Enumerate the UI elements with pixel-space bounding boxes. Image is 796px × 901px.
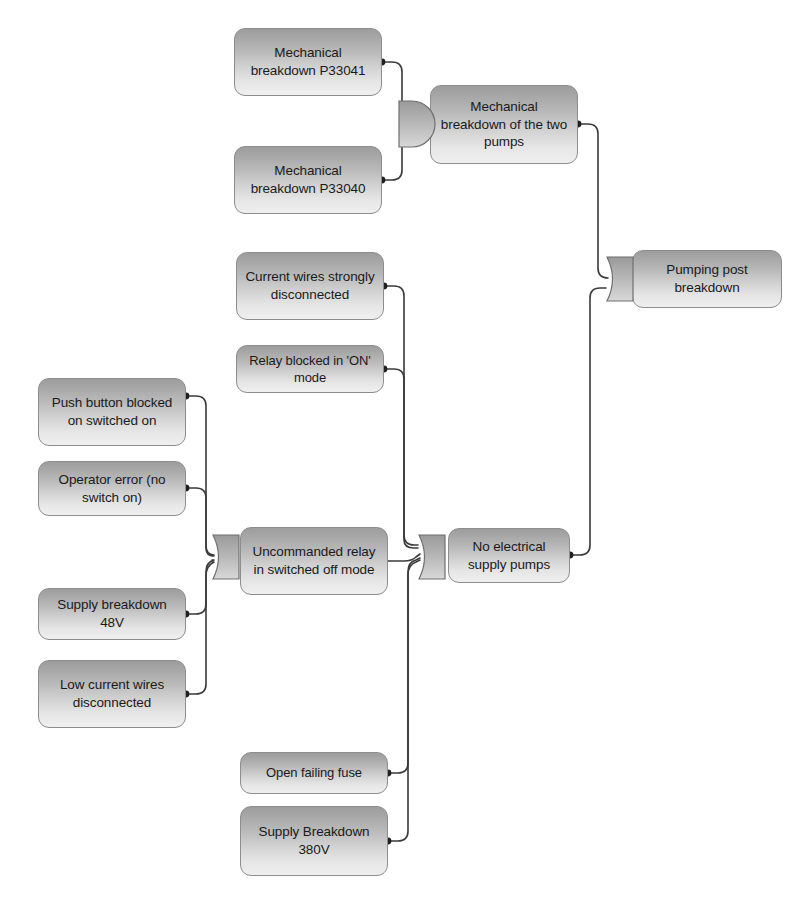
event-mechanical-breakdown-p33041[interactable]: Mechanical breakdown P33041 — [234, 28, 382, 96]
event-low-current-wires-disconnected[interactable]: Low current wires disconnected — [38, 660, 186, 728]
event-label: Mechanical breakdown P33041 — [241, 44, 375, 80]
wire-open-fuse-to-supply-gate — [388, 558, 420, 773]
fault-tree-diagram: Mechanical breakdown P33041 Mechanical b… — [0, 0, 796, 901]
wire-relay-on-to-supply-gate — [384, 369, 418, 548]
wire-uncommanded-to-supply-gate — [388, 554, 420, 561]
wire-two-pumps-to-top-gate — [578, 124, 608, 278]
event-label: Mechanical breakdown P33040 — [241, 162, 375, 198]
wire-push-button-to-relay-gate — [186, 396, 214, 555]
event-label: Operator error (no switch on) — [45, 471, 179, 507]
event-supply-breakdown-380v[interactable]: Supply Breakdown 380V — [240, 806, 388, 876]
event-pumping-post-breakdown[interactable]: Pumping post breakdown — [632, 250, 782, 308]
event-supply-breakdown-48v[interactable]: Supply breakdown 48V — [38, 588, 186, 640]
or-gate-no-electrical-supply[interactable] — [418, 534, 448, 580]
event-label: No electrical supply pumps — [455, 538, 563, 574]
or-gate-uncommanded-relay[interactable] — [212, 534, 242, 580]
wire-supply-48v-to-relay-gate — [186, 560, 214, 614]
wire-no-supply-to-top-gate — [570, 288, 606, 555]
event-push-button-blocked[interactable]: Push button blocked on switched on — [38, 378, 186, 446]
or-gate-pumping-post[interactable] — [606, 256, 636, 302]
wire-low-current-to-relay-gate — [186, 562, 214, 694]
event-label: Open failing fuse — [247, 764, 381, 781]
event-mechanical-breakdown-p33040[interactable]: Mechanical breakdown P33040 — [234, 146, 382, 214]
event-label: Supply Breakdown 380V — [247, 823, 381, 859]
event-label: Low current wires disconnected — [45, 676, 179, 712]
wire-operator-error-to-relay-gate — [186, 488, 214, 556]
wire-supply-380v-to-supply-gate — [388, 560, 420, 841]
event-current-wires-disconnected[interactable]: Current wires strongly disconnected — [236, 252, 384, 320]
wire-current-wires-to-supply-gate — [384, 286, 418, 545]
event-label: Uncommanded relay in switched off mode — [247, 543, 381, 579]
event-label: Current wires strongly disconnected — [243, 268, 377, 304]
event-label: Pumping post breakdown — [639, 261, 775, 297]
event-relay-blocked-on-mode[interactable]: Relay blocked in 'ON' mode — [236, 345, 384, 393]
event-label: Relay blocked in 'ON' mode — [243, 352, 377, 386]
event-label: Supply breakdown 48V — [45, 596, 179, 632]
event-open-failing-fuse[interactable]: Open failing fuse — [240, 752, 388, 794]
and-gate-two-pumps[interactable] — [398, 100, 434, 148]
event-label: Mechanical breakdown of the two pumps — [437, 98, 571, 151]
event-label: Push button blocked on switched on — [45, 394, 179, 430]
event-uncommanded-relay-switched-off[interactable]: Uncommanded relay in switched off mode — [240, 527, 388, 595]
event-no-electrical-supply-pumps[interactable]: No electrical supply pumps — [448, 528, 570, 583]
event-mechanical-breakdown-two-pumps[interactable]: Mechanical breakdown of the two pumps — [430, 85, 578, 164]
event-operator-error[interactable]: Operator error (no switch on) — [38, 461, 186, 516]
